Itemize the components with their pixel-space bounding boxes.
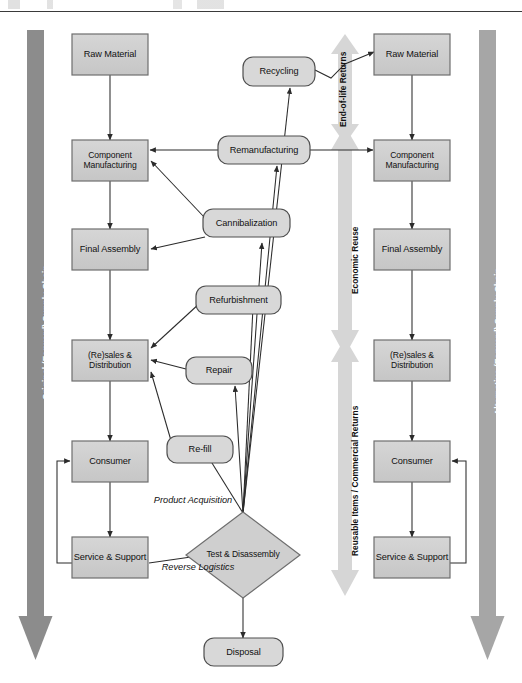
node-re-fill[interactable]	[167, 436, 233, 463]
diagram-canvas: Original (Forward) Supply Chain Alternat…	[0, 0, 522, 683]
node-left-resales-distribution[interactable]	[72, 340, 148, 381]
node-right-final-assembly[interactable]	[374, 229, 450, 270]
node-left-final-assembly[interactable]	[72, 229, 148, 270]
band-label-end-of-life-returns: End-of-life Returns	[338, 52, 348, 127]
rail-label-right: Alternative (Forward) Supply Chain	[493, 268, 503, 415]
node-left-service-support[interactable]	[72, 537, 148, 578]
node-remanufacturing[interactable]	[218, 136, 310, 164]
node-repair[interactable]	[186, 357, 252, 384]
node-left-consumer[interactable]	[72, 441, 148, 482]
recovery-node-shapes	[167, 57, 315, 463]
node-right-consumer[interactable]	[374, 441, 450, 482]
node-right-raw-material[interactable]	[374, 34, 450, 75]
node-recycling[interactable]	[243, 57, 315, 86]
node-right-service-support[interactable]	[374, 537, 450, 578]
node-test-disassembly[interactable]	[186, 512, 300, 598]
node-disposal[interactable]	[204, 638, 283, 666]
rail-label-left: Original (Forward) Supply Chain	[41, 265, 51, 400]
node-left-raw-material[interactable]	[72, 34, 148, 75]
node-right-resales-distribution[interactable]	[374, 340, 450, 381]
annotation-reverse-logistics: Reverse Logistics	[150, 562, 246, 573]
flowchart-svg	[0, 0, 522, 683]
node-right-component-manufacturing[interactable]	[374, 140, 450, 181]
band-label-economic-reuse: Economic Reuse	[350, 227, 360, 295]
annotation-product-acquisition: Product Acquisition	[138, 495, 248, 506]
node-left-component-manufacturing[interactable]	[72, 140, 148, 181]
node-cannibalization[interactable]	[203, 209, 290, 237]
node-refurbishment[interactable]	[196, 286, 281, 314]
decision-shapes	[186, 512, 300, 666]
band-label-reusable-items: Reusable Items / Commercial Returns	[350, 406, 360, 556]
